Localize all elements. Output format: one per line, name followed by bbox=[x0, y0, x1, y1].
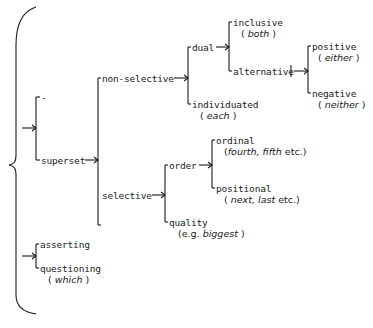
example-ordinal: (fourth, fifth etc.) bbox=[224, 146, 306, 157]
option-negative: negative bbox=[312, 88, 356, 99]
root-brace bbox=[9, 7, 36, 314]
option-individuated: individuated bbox=[192, 99, 258, 110]
option-dash: - bbox=[41, 92, 47, 103]
option-non-selective: non-selective bbox=[102, 73, 174, 84]
example-individuated: ( each ) bbox=[200, 110, 236, 121]
example-inclusive: ( both ) bbox=[241, 28, 276, 39]
example-positive: ( either ) bbox=[318, 52, 359, 63]
option-questioning: questioning bbox=[40, 263, 101, 274]
option-positive: positive bbox=[312, 41, 356, 52]
option-positional: positional bbox=[216, 183, 271, 194]
example-questioning: ( which ) bbox=[48, 274, 89, 285]
system-network-diagram: - superset non-selective selective dual … bbox=[0, 0, 373, 328]
option-ordinal: ordinal bbox=[216, 135, 255, 146]
example-quality: (e.g. biggest ) bbox=[178, 228, 245, 239]
option-quality: quality bbox=[169, 217, 208, 228]
example-positional: ( next, last etc.) bbox=[224, 194, 300, 205]
option-superset: superset bbox=[41, 155, 85, 166]
example-negative: ( neither ) bbox=[318, 99, 365, 110]
option-selective: selective bbox=[102, 190, 152, 201]
option-inclusive: inclusive bbox=[233, 17, 283, 28]
option-order: order bbox=[169, 160, 197, 171]
option-asserting: asserting bbox=[40, 239, 90, 250]
option-dual: dual bbox=[192, 42, 214, 53]
option-alternative: alternative bbox=[233, 66, 294, 77]
